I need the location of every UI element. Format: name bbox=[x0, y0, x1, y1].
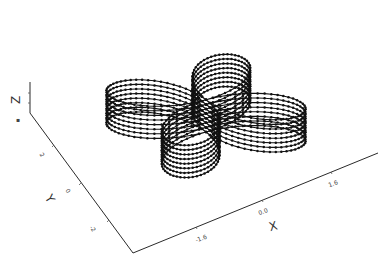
data-point-marker bbox=[109, 84, 112, 87]
data-point-marker bbox=[114, 112, 117, 115]
data-point-marker bbox=[222, 72, 225, 75]
data-point-marker bbox=[203, 63, 206, 66]
data-point-marker bbox=[160, 110, 163, 113]
data-point-marker bbox=[146, 137, 149, 140]
data-point-marker bbox=[153, 84, 156, 87]
data-point-marker bbox=[256, 145, 259, 148]
data-point-marker bbox=[176, 143, 179, 146]
data-point-marker bbox=[290, 122, 293, 125]
data-point-marker bbox=[203, 159, 206, 162]
data-point-marker bbox=[285, 132, 288, 135]
data-point-marker bbox=[207, 143, 210, 146]
data-point-marker bbox=[234, 98, 237, 101]
data-point-marker bbox=[280, 118, 283, 121]
data-point-marker bbox=[196, 157, 199, 160]
data-point-marker bbox=[225, 137, 228, 140]
data-point-marker bbox=[110, 101, 113, 104]
data-point-marker bbox=[210, 141, 213, 144]
data-point-marker bbox=[256, 118, 259, 121]
data-point-marker bbox=[139, 127, 142, 130]
data-point-marker bbox=[237, 59, 240, 62]
data-point-marker bbox=[247, 89, 250, 92]
data-point-marker bbox=[242, 102, 245, 105]
data-point-marker bbox=[127, 130, 130, 133]
data-point-marker bbox=[139, 136, 142, 139]
data-point-marker bbox=[225, 110, 228, 113]
data-point-marker bbox=[237, 118, 240, 121]
data-point-marker bbox=[183, 158, 186, 161]
data-point-marker bbox=[153, 137, 156, 140]
data-point-marker bbox=[215, 163, 218, 166]
data-point-marker bbox=[160, 94, 163, 97]
data-point-marker bbox=[263, 146, 266, 149]
data-point-marker bbox=[205, 112, 208, 115]
data-point-marker bbox=[169, 155, 172, 158]
data-point-marker bbox=[161, 156, 164, 159]
data-point-marker bbox=[276, 117, 279, 120]
data-point-marker bbox=[229, 89, 232, 92]
data-point-marker bbox=[161, 133, 164, 136]
data-point-marker bbox=[250, 144, 253, 147]
data-point-marker bbox=[146, 114, 149, 117]
data-point-marker bbox=[256, 92, 259, 95]
data-point-marker bbox=[241, 70, 244, 73]
data-point-marker bbox=[206, 71, 209, 74]
data-point-marker bbox=[127, 125, 130, 128]
data-point-marker bbox=[129, 83, 132, 86]
data-point-marker bbox=[275, 119, 278, 122]
data-point-marker bbox=[180, 108, 183, 111]
data-point-marker bbox=[282, 109, 285, 112]
data-point-marker bbox=[179, 95, 182, 98]
data-point-marker bbox=[275, 123, 278, 126]
data-point-marker bbox=[203, 86, 206, 89]
data-point-marker bbox=[226, 62, 229, 65]
data-point-marker bbox=[249, 64, 252, 67]
data-point-marker bbox=[263, 127, 266, 130]
data-point-marker bbox=[237, 64, 240, 67]
data-point-marker bbox=[225, 123, 228, 126]
data-point-marker bbox=[120, 80, 123, 83]
data-point-marker bbox=[249, 111, 252, 114]
data-point-marker bbox=[172, 151, 175, 154]
data-point-marker bbox=[160, 131, 163, 134]
data-point-marker bbox=[209, 102, 212, 105]
data-point-marker bbox=[186, 119, 189, 122]
data-point-marker bbox=[263, 150, 266, 153]
data-point-marker bbox=[183, 144, 186, 147]
data-point-marker bbox=[269, 128, 272, 131]
data-point-marker bbox=[139, 104, 142, 107]
data-point-marker bbox=[205, 126, 208, 128]
data-point-marker bbox=[127, 135, 130, 138]
data-point-marker bbox=[237, 78, 240, 81]
data-point-marker bbox=[133, 108, 136, 111]
data-point-marker bbox=[190, 111, 193, 114]
data-point-marker bbox=[153, 114, 156, 117]
data-point-marker bbox=[296, 108, 299, 111]
data-point-marker bbox=[160, 81, 163, 84]
data-point-marker bbox=[212, 119, 215, 122]
data-point-marker bbox=[246, 69, 249, 72]
data-point-marker bbox=[146, 132, 149, 135]
data-point-marker bbox=[280, 132, 283, 135]
data-point-marker bbox=[218, 115, 221, 118]
data-point-marker bbox=[112, 82, 115, 85]
data-point-marker bbox=[263, 97, 266, 100]
data-point-marker bbox=[203, 68, 206, 71]
data-point-marker bbox=[180, 112, 183, 115]
data-point-marker bbox=[230, 53, 233, 56]
data-point-marker bbox=[183, 176, 186, 179]
data-point-marker bbox=[141, 83, 144, 86]
data-point-marker bbox=[292, 107, 295, 110]
z-tick-mark-label: ▪ bbox=[16, 116, 20, 123]
data-point-marker bbox=[114, 126, 117, 129]
data-point-marker bbox=[256, 106, 259, 109]
data-point-marker bbox=[190, 90, 193, 93]
data-point-marker bbox=[226, 53, 229, 56]
data-point-marker bbox=[168, 135, 171, 138]
x-tick-label-1.6: 1.6 bbox=[327, 178, 339, 188]
data-point-marker bbox=[203, 91, 206, 94]
data-point-marker bbox=[215, 159, 218, 162]
data-point-marker bbox=[114, 103, 117, 106]
data-point-marker bbox=[300, 141, 303, 144]
data-point-marker bbox=[256, 141, 259, 144]
